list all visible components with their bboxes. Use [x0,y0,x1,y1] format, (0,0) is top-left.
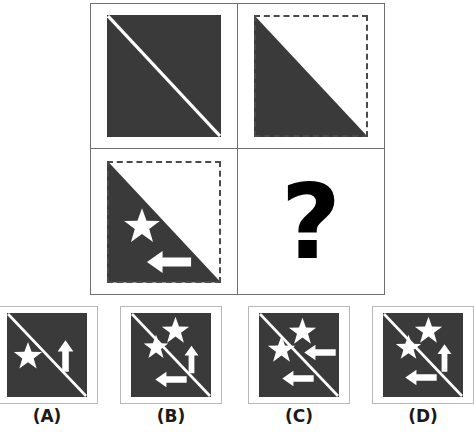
answer-option-a[interactable]: (A) [0,306,98,439]
dark-triangle-fill [107,161,221,283]
figure-triangle-dashed-star-arrow [107,161,221,283]
dark-triangle-fill [254,15,368,137]
option-c-label: (C) [248,406,350,426]
answer-option-b[interactable]: (B) [120,306,222,439]
figure-option-b [131,313,211,397]
figure-triangle-dashed [254,15,368,137]
answer-option-c[interactable]: (C) [248,306,350,439]
dark-square-fill [383,313,463,397]
dark-square-fill [259,313,339,397]
matrix-cell-1-2[interactable] [238,4,384,149]
option-a-label: (A) [0,406,98,426]
question-mark-glyph: ? [281,170,341,274]
figure-option-d [383,313,463,397]
dark-square-fill [107,15,221,137]
dark-square-fill [7,313,87,397]
option-b-box[interactable] [120,306,222,404]
dark-square-fill [131,313,211,397]
answer-option-d[interactable]: (D) [372,306,474,439]
matrix-cell-1-1[interactable] [91,4,238,149]
answer-options-row: (A) [0,306,474,439]
matrix-cell-2-2-answer-slot[interactable]: ? [238,149,384,294]
option-d-label: (D) [372,406,474,426]
matrix-grid: ? [90,3,385,295]
figure-option-c [259,313,339,397]
figure-option-a [7,313,87,397]
option-a-box[interactable] [0,306,98,404]
figure-full-dark-with-diagonal [107,15,221,137]
option-c-box[interactable] [248,306,350,404]
option-b-label: (B) [120,406,222,426]
matrix-cell-2-1[interactable] [91,149,238,294]
option-d-box[interactable] [372,306,474,404]
